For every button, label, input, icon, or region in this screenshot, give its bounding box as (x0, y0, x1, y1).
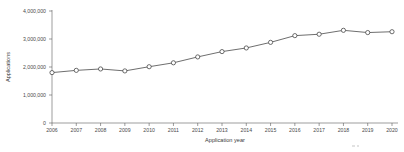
data-point-marker (366, 30, 370, 34)
y-tick-label: 3,000,000 (23, 36, 46, 42)
x-tick-label: 2011 (168, 127, 179, 133)
y-tick-label: 2,000,000 (23, 64, 46, 70)
x-tick-label: 2014 (241, 127, 253, 133)
x-tick-label: 2013 (216, 127, 228, 133)
x-tick-label: 2020 (386, 127, 398, 133)
x-tick-label: 2012 (192, 127, 204, 133)
data-point-marker (317, 32, 321, 36)
data-point-marker (98, 67, 102, 71)
data-point-marker (244, 46, 248, 50)
y-tick-label: 1,000,000 (23, 92, 46, 98)
data-point-marker (220, 50, 224, 54)
line-chart: 01,000,0002,000,0003,000,0004,000,000 20… (0, 0, 404, 152)
x-tick-label: 2006 (46, 127, 58, 133)
x-tick-label: 2016 (289, 127, 301, 133)
data-point-marker (196, 55, 200, 59)
y-axis-title: Applications (5, 52, 11, 82)
data-point-marker (293, 34, 297, 38)
x-tick-label: 2015 (265, 127, 277, 133)
data-point-marker (147, 65, 151, 69)
y-tick-label: 0 (43, 120, 46, 126)
x-axis-title: Application year (205, 137, 245, 143)
data-point-marker (50, 71, 54, 75)
x-tick-label: 2009 (119, 127, 131, 133)
x-tick-label: 2007 (71, 127, 83, 133)
x-tick-label: 2010 (143, 127, 155, 133)
x-tick-label: 2018 (338, 127, 350, 133)
x-tick-label: 2008 (95, 127, 107, 133)
chart-canvas: 01,000,0002,000,0003,000,0004,000,000 20… (0, 0, 404, 152)
x-tick-label: 2017 (313, 127, 325, 133)
data-point-marker (123, 69, 127, 73)
y-tick-label: 4,000,000 (23, 8, 46, 14)
data-point-marker (74, 68, 78, 72)
data-point-marker (390, 30, 394, 34)
data-point-marker (268, 40, 272, 44)
data-point-marker (171, 61, 175, 65)
data-point-marker (341, 28, 345, 32)
x-tick-label: 2019 (362, 127, 374, 133)
